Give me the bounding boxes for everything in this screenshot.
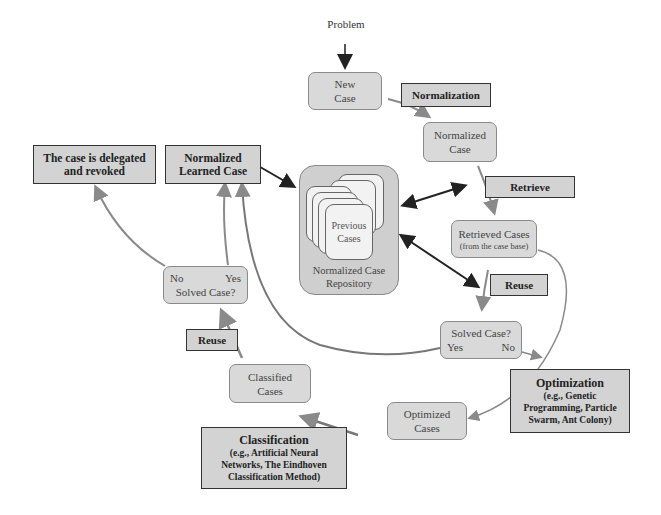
node-text: Case [449, 142, 470, 156]
yes-branch-label: Yes [225, 271, 241, 285]
node-text: Retrieved Cases [458, 227, 529, 241]
label-text: Reuse [505, 279, 533, 292]
label-reuse-right: Reuse [490, 274, 548, 296]
node-solved-case-right: Solved Case? Yes No [440, 321, 522, 359]
label-classification: Classification (e.g., Artificial Neural … [201, 427, 347, 489]
card-text: Previous [332, 219, 367, 232]
node-text: Solved Case? [451, 326, 511, 340]
node-text: Optimized [404, 407, 450, 421]
label-text: (e.g., Artificial Neural [230, 447, 318, 459]
node-new-case: New Case [308, 72, 382, 110]
node-text: Cases [257, 384, 283, 398]
label-text: Retrieve [510, 181, 550, 194]
node-normalized-learned-case: Normalized Learned Case [165, 145, 261, 184]
node-text: Solved Case? [176, 285, 236, 299]
node-text: Case [334, 91, 355, 105]
node-text: Normalized [184, 152, 241, 165]
node-text: Cases [414, 421, 440, 435]
label-text: Reuse [198, 334, 226, 347]
node-classified-cases: Classified Cases [229, 364, 311, 403]
node-text: Learned Case [179, 165, 247, 178]
label-text: Normalization [412, 89, 480, 102]
node-text: New [335, 77, 356, 91]
label-reuse-left: Reuse [186, 329, 238, 351]
label-title: Classification [239, 434, 308, 447]
caption-text: Normalized Case [300, 264, 398, 277]
node-normalized-case: Normalized Case [423, 122, 497, 162]
card-text: Cases [337, 232, 360, 245]
label-text: Classification Method) [228, 471, 320, 483]
problem-label: Problem [320, 18, 372, 30]
node-retrieved-cases: Retrieved Cases (from the case base) [451, 220, 537, 258]
node-optimized-cases: Optimized Cases [387, 402, 467, 440]
label-text: Programming, Particle [523, 402, 616, 414]
yes-branch-label: Yes [447, 340, 463, 354]
label-text: Networks, The Eindhoven [221, 459, 327, 471]
node-delegated-revoked: The case is delegated and revoked [33, 145, 156, 184]
repository-caption: Normalized Case Repository [300, 264, 398, 290]
label-normalization: Normalization [401, 83, 491, 107]
no-branch-label: No [170, 271, 183, 285]
node-text: Normalized [434, 128, 486, 142]
node-text: The case is delegated [43, 152, 146, 165]
label-retrieve: Retrieve [485, 176, 575, 198]
label-text: (e.g., Genetic [544, 390, 597, 402]
label-text: Swarm, Ant Colony) [528, 414, 611, 426]
node-subtext: (from the case base) [460, 241, 529, 251]
no-branch-label: No [502, 340, 515, 354]
caption-text: Repository [300, 277, 398, 290]
node-solved-case-left: No Yes Solved Case? [163, 266, 248, 304]
case-card-front: Previous Cases [325, 204, 373, 260]
label-optimization: Optimization (e.g., Genetic Programming,… [510, 369, 630, 433]
label-title: Optimization [536, 377, 604, 390]
node-case-repository: Previous Cases Normalized Case Repositor… [299, 165, 399, 295]
node-text: Classified [248, 370, 292, 384]
node-text: and revoked [64, 165, 125, 178]
